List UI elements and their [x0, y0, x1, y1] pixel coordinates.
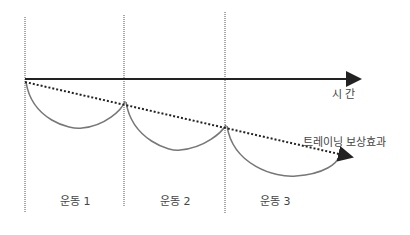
session-label-3: 운동 3: [260, 192, 291, 208]
session-label-1: 운동 1: [60, 192, 91, 208]
trend-label: 트레이닝 보상효과: [303, 133, 387, 149]
recovery-arc-2: [126, 102, 226, 150]
session-label-2: 운동 2: [160, 192, 191, 208]
recovery-arc-1: [26, 82, 125, 128]
axis-label: 시 간: [332, 85, 356, 101]
